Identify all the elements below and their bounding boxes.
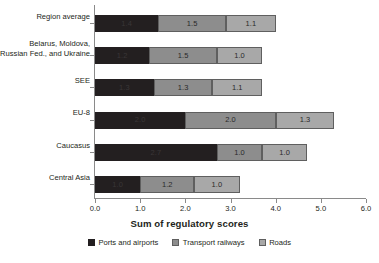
bar-track: 1.31.31.1 <box>95 79 366 96</box>
x-axis-tick-label: 4.0 <box>256 204 296 213</box>
bar-segment-value-label: 1.0 <box>212 181 223 189</box>
bar-segment-value-label: 1.0 <box>279 149 290 157</box>
bar-track: 1.21.51.0 <box>95 47 366 64</box>
category-label-line: EU-8 <box>0 108 90 117</box>
category-label-line: Russian Fed., and Ukraine <box>0 49 90 58</box>
category-label-line: Region average <box>0 12 90 21</box>
y-axis-category-label: EU-8 <box>0 108 90 117</box>
bar-segment-value-label: 1.1 <box>245 20 256 28</box>
bar-row: 2.71.01.0 <box>95 137 366 169</box>
bar-row: 1.41.51.1 <box>95 8 366 40</box>
bar-segment-value-label: 2.7 <box>151 149 162 157</box>
x-axis-tick-label: 5.0 <box>301 204 341 213</box>
bar-segment-value-label: 2.0 <box>135 116 146 124</box>
x-axis-tick-label: 0.0 <box>75 204 115 213</box>
bar-segment-value-label: 1.1 <box>232 84 243 92</box>
plot-area: 1.41.51.11.21.51.01.31.31.12.02.01.32.71… <box>95 5 366 198</box>
x-axis-tick-label: 1.0 <box>120 204 160 213</box>
bar-segment-value-label: 1.3 <box>178 84 189 92</box>
legend-item[interactable]: Transport railways <box>172 238 244 247</box>
bar-segment-value-label: 1.2 <box>162 181 173 189</box>
bar-row: 1.21.51.0 <box>95 40 366 72</box>
bar-segment: 1.5 <box>149 47 217 64</box>
bar-segment-value-label: 1.5 <box>178 52 189 60</box>
bar-segment: 2.7 <box>95 144 217 161</box>
bar-segment: 1.0 <box>217 47 262 64</box>
x-axis-tick <box>276 199 277 203</box>
stacked-bar-chart: Region averageBelarus, Moldova,Russian F… <box>0 0 379 263</box>
y-axis-category-label: Region average <box>0 12 90 21</box>
y-axis-category-label: Belarus, Moldova,Russian Fed., and Ukrai… <box>0 39 90 58</box>
bar-segment-value-label: 1.3 <box>119 84 130 92</box>
bar-segment: 1.3 <box>154 79 213 96</box>
bar-segment: 1.3 <box>95 79 154 96</box>
legend-item[interactable]: Ports and airports <box>88 238 158 247</box>
bar-segment-value-label: 1.0 <box>234 52 245 60</box>
x-axis-tick <box>95 199 96 203</box>
bar-segment: 1.0 <box>262 144 307 161</box>
bar-segment: 1.4 <box>95 15 158 32</box>
x-axis-tick-label: 3.0 <box>211 204 251 213</box>
legend-swatch-icon <box>88 239 95 246</box>
category-label-line: SEE <box>0 76 90 85</box>
category-label-line: Caucasus <box>0 141 90 150</box>
bar-row: 1.31.31.1 <box>95 72 366 104</box>
bar-track: 1.41.51.1 <box>95 15 366 32</box>
category-label-line: Belarus, Moldova, <box>0 39 90 48</box>
chart-legend: Ports and airportsTransport railwaysRoad… <box>0 238 379 247</box>
x-axis-tick <box>185 199 186 203</box>
x-axis-tick <box>140 199 141 203</box>
bar-track: 1.01.21.0 <box>95 176 366 193</box>
bar-segment: 1.1 <box>212 79 262 96</box>
x-axis-tick-label: 2.0 <box>165 204 205 213</box>
x-axis-tick <box>321 199 322 203</box>
bar-segment: 1.3 <box>276 112 335 129</box>
legend-swatch-icon <box>259 239 266 246</box>
bar-segment: 1.0 <box>95 176 140 193</box>
category-label-line: Central Asia <box>0 173 90 182</box>
bar-segment-value-label: 2.0 <box>225 116 236 124</box>
bar-segment-value-label: 1.3 <box>300 116 311 124</box>
x-axis-title: Sum of regulatory scores <box>0 218 379 229</box>
x-axis-tick-label: 6.0 <box>346 204 379 213</box>
bar-segment: 1.2 <box>140 176 194 193</box>
y-axis-category-label: SEE <box>0 76 90 85</box>
legend-item-label: Roads <box>269 238 291 247</box>
bar-segment-value-label: 1.0 <box>234 149 245 157</box>
x-axis-tick <box>231 199 232 203</box>
legend-item-label: Ports and airports <box>98 238 158 247</box>
bar-segment: 2.0 <box>185 112 275 129</box>
bar-segment: 1.0 <box>217 144 262 161</box>
bar-track: 2.02.01.3 <box>95 112 366 129</box>
bar-segment: 1.5 <box>158 15 226 32</box>
bar-segment-value-label: 1.0 <box>112 181 123 189</box>
bar-segment-value-label: 1.4 <box>121 20 132 28</box>
bar-track: 2.71.01.0 <box>95 144 366 161</box>
y-axis-category-label: Caucasus <box>0 141 90 150</box>
bar-segment-value-label: 1.5 <box>187 20 198 28</box>
bar-segment: 2.0 <box>95 112 185 129</box>
bar-row: 2.02.01.3 <box>95 105 366 137</box>
legend-swatch-icon <box>172 239 179 246</box>
bar-segment: 1.0 <box>194 176 239 193</box>
bar-row: 1.01.21.0 <box>95 169 366 201</box>
bar-segment: 1.2 <box>95 47 149 64</box>
bar-segment-value-label: 1.2 <box>117 52 128 60</box>
y-axis-category-label: Central Asia <box>0 173 90 182</box>
bar-segment: 1.1 <box>226 15 276 32</box>
x-axis-tick <box>366 199 367 203</box>
legend-item-label: Transport railways <box>183 238 245 247</box>
legend-item[interactable]: Roads <box>259 238 291 247</box>
